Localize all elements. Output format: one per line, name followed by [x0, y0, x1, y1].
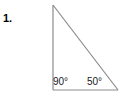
angle-label-90-degrees: 90°	[53, 76, 68, 87]
math-problem-figure: 1. 90° 50°	[0, 0, 121, 94]
angle-label-50-degrees: 50°	[87, 76, 102, 87]
